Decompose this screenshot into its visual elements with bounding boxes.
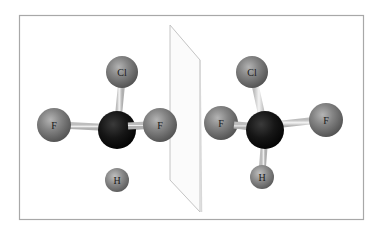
atom-label-f: F [218,118,224,129]
atom-cl: Cl [236,56,268,88]
atom-c [98,111,136,149]
atom-label-cl: Cl [247,67,257,78]
atom-f-right: F [309,103,343,137]
enantiomer-diagram: Cl F F H [0,0,380,227]
atom-label-cl: Cl [117,67,127,78]
atom-c [246,111,284,149]
diagram-canvas: Cl F F H [0,0,380,227]
atom-f-left: F [204,106,238,140]
atom-h: H [250,165,274,189]
atom-f-right: F [143,108,177,142]
atom-label-h: H [258,172,265,183]
atom-cl: Cl [106,56,138,88]
atom-label-f: F [51,120,57,131]
atom-h: H [105,168,129,192]
atom-f-left: F [37,108,71,142]
atom-label-f: F [323,115,329,126]
atom-label-h: H [113,175,120,186]
atom-label-f: F [157,120,163,131]
